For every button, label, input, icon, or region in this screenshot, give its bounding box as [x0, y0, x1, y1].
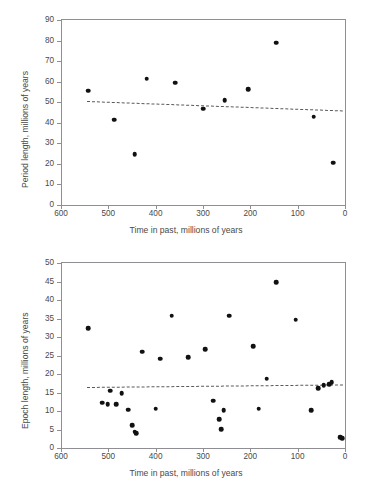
y-axis-tick	[57, 430, 61, 431]
figure-sheet: Period length, millions of years Time in…	[0, 0, 372, 486]
chart-period-length: Period length, millions of years Time in…	[0, 0, 372, 243]
y-axis-tick-label: 90	[30, 16, 54, 24]
data-point	[100, 401, 105, 406]
data-point	[222, 408, 227, 413]
y-axis-tick-label: 60	[30, 78, 54, 86]
y-axis-tick-label: 70	[30, 57, 54, 65]
x-axis-tick-label: 600	[46, 453, 76, 461]
y-axis-tick	[57, 282, 61, 283]
y-axis-tick	[57, 411, 61, 412]
data-point	[293, 317, 298, 322]
y-axis-tick-label: 20	[30, 370, 54, 378]
x-axis-title: Time in past, millions of years	[0, 468, 372, 478]
data-point	[169, 313, 174, 318]
plot-area	[61, 20, 345, 205]
y-axis-tick	[57, 102, 61, 103]
x-axis-tick-label: 100	[283, 453, 313, 461]
data-point	[309, 408, 314, 413]
y-axis-tick-label: 20	[30, 160, 54, 168]
y-axis-tick-label: 25	[30, 352, 54, 360]
x-axis-tick-label: 300	[188, 210, 218, 218]
data-point	[251, 344, 256, 349]
data-point	[144, 76, 149, 81]
data-point	[316, 386, 321, 391]
data-point	[217, 417, 222, 422]
y-axis-tick-label: 50	[30, 98, 54, 106]
data-point	[311, 114, 316, 119]
trend-line	[87, 384, 343, 388]
data-point	[108, 388, 113, 393]
data-point	[173, 81, 178, 86]
data-point	[186, 355, 191, 360]
y-axis-tick	[57, 263, 61, 264]
data-point	[134, 431, 139, 436]
data-point	[126, 407, 131, 412]
y-axis-tick	[57, 319, 61, 320]
data-point	[222, 98, 227, 103]
data-point	[86, 88, 91, 93]
data-point	[265, 377, 270, 382]
y-axis-tick	[57, 300, 61, 301]
data-point	[211, 398, 216, 403]
plot-area	[61, 263, 345, 448]
x-axis-tick-label: 400	[141, 210, 171, 218]
x-axis-tick-label: 600	[46, 210, 76, 218]
data-point	[114, 402, 119, 407]
data-point	[112, 117, 117, 122]
y-axis-tick-label: 0	[30, 444, 54, 452]
y-axis-tick	[57, 61, 61, 62]
y-axis-tick	[57, 337, 61, 338]
data-point	[274, 280, 279, 285]
x-axis-tick-label: 0	[330, 453, 360, 461]
data-point	[257, 406, 262, 411]
y-axis-tick	[57, 82, 61, 83]
y-axis-tick-label: 40	[30, 296, 54, 304]
y-axis-tick	[57, 143, 61, 144]
x-axis-tick-label: 500	[93, 210, 123, 218]
y-axis-tick	[57, 41, 61, 42]
y-axis-tick	[57, 374, 61, 375]
chart-epoch-length: Epoch length, millions of years Time in …	[0, 243, 372, 486]
data-point	[219, 427, 224, 432]
data-point	[140, 350, 145, 355]
y-axis-tick-label: 40	[30, 119, 54, 127]
y-axis-tick-label: 35	[30, 315, 54, 323]
y-axis-title: Period length, millions of years	[20, 71, 30, 188]
y-axis-tick-label: 30	[30, 333, 54, 341]
y-axis-tick-label: 30	[30, 139, 54, 147]
data-point	[340, 436, 345, 441]
y-axis-tick	[57, 184, 61, 185]
x-axis-tick-label: 400	[141, 453, 171, 461]
data-point	[331, 161, 336, 166]
data-point	[203, 347, 208, 352]
y-axis-tick	[57, 393, 61, 394]
data-point	[130, 423, 135, 428]
trend-line	[87, 101, 343, 111]
data-point	[329, 380, 334, 385]
y-axis-tick-label: 45	[30, 278, 54, 286]
x-axis-tick-label: 200	[235, 210, 265, 218]
data-point	[274, 40, 279, 45]
x-axis-tick-label: 200	[235, 453, 265, 461]
y-axis-tick-label: 15	[30, 389, 54, 397]
data-point	[86, 326, 91, 331]
y-axis-tick	[57, 356, 61, 357]
x-axis-tick-label: 500	[93, 453, 123, 461]
x-axis-title: Time in past, millions of years	[0, 225, 372, 235]
y-axis-tick	[57, 20, 61, 21]
data-point	[227, 313, 232, 318]
data-point	[246, 87, 251, 92]
data-point	[153, 406, 158, 411]
data-point	[321, 383, 326, 388]
data-point	[119, 391, 124, 396]
y-axis-tick-label: 5	[30, 426, 54, 434]
y-axis-tick-label: 50	[30, 259, 54, 267]
y-axis-tick	[57, 123, 61, 124]
x-axis-tick-label: 0	[330, 210, 360, 218]
y-axis-tick-label: 10	[30, 407, 54, 415]
y-axis-tick-label: 10	[30, 180, 54, 188]
y-axis-title: Epoch length, millions of years	[20, 312, 30, 429]
data-point	[106, 402, 111, 407]
x-axis-tick-label: 100	[283, 210, 313, 218]
data-point	[158, 357, 163, 362]
